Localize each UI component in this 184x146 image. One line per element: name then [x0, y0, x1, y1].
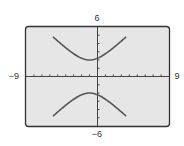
xmin-label: −9 [9, 71, 19, 81]
hyperbola-graph: 6 −6 −9 9 [0, 0, 184, 146]
xmax-label: 9 [174, 71, 179, 81]
ymax-label: 6 [94, 13, 99, 23]
ymin-label: −6 [92, 129, 102, 139]
